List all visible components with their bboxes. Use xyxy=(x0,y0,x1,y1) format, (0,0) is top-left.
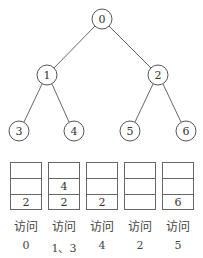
binary-tree: 0 1 2 3 4 5 6 xyxy=(0,0,203,150)
stack-cell xyxy=(125,179,155,195)
stack-cell: 6 xyxy=(163,195,193,211)
stack-cell xyxy=(49,163,79,179)
stack-state-3: 2 xyxy=(86,162,118,210)
stack-state-2: 4 2 xyxy=(48,162,80,210)
stack-state-4 xyxy=(124,162,156,210)
node-label: 1 xyxy=(44,69,51,82)
stack-cell xyxy=(163,179,193,195)
stack-cell xyxy=(125,195,155,211)
tree-node-0: 0 xyxy=(92,9,112,29)
tree-node-3: 3 xyxy=(9,121,29,141)
edge-0-2 xyxy=(109,26,151,68)
stack-cell xyxy=(87,179,117,195)
step-visited-nodes: 4 xyxy=(83,239,121,252)
tree-node-6: 6 xyxy=(176,121,196,141)
edge-2-5 xyxy=(135,84,153,122)
tree-node-1: 1 xyxy=(37,65,57,85)
stack-state-1: 2 xyxy=(10,162,42,210)
stack-cell: 4 xyxy=(49,179,79,195)
step-visited-nodes: 2 xyxy=(121,239,159,252)
tree-node-5: 5 xyxy=(120,121,140,141)
node-label: 5 xyxy=(127,125,134,138)
step-visited-nodes: 5 xyxy=(159,239,197,252)
step-action-label: 访问 xyxy=(83,217,121,234)
step-visited-nodes: 0 xyxy=(7,239,45,252)
step-action-label: 访问 xyxy=(159,217,197,234)
tree-node-2: 2 xyxy=(148,65,168,85)
stack-cell xyxy=(11,179,41,195)
node-label: 6 xyxy=(183,125,190,138)
stack-state-5: 6 xyxy=(162,162,194,210)
edge-0-1 xyxy=(54,26,95,68)
edge-1-4 xyxy=(52,84,69,122)
stack-cell xyxy=(11,163,41,179)
tree-node-4: 4 xyxy=(64,121,84,141)
edge-1-3 xyxy=(24,84,42,122)
node-label: 3 xyxy=(16,125,23,138)
node-label: 4 xyxy=(71,125,78,138)
node-label: 2 xyxy=(155,69,162,82)
stack-cell xyxy=(125,163,155,179)
step-action-label: 访问 xyxy=(121,217,159,234)
step-visited-nodes: 1、3 xyxy=(45,239,83,255)
node-label: 0 xyxy=(99,13,106,26)
stack-cell: 2 xyxy=(49,195,79,211)
edge-2-6 xyxy=(163,84,181,122)
step-action-label: 访问 xyxy=(45,217,83,234)
step-action-label: 访问 xyxy=(7,217,45,234)
stack-cell: 2 xyxy=(87,195,117,211)
stack-cell xyxy=(87,163,117,179)
stack-cell xyxy=(163,163,193,179)
stack-cell: 2 xyxy=(11,195,41,211)
